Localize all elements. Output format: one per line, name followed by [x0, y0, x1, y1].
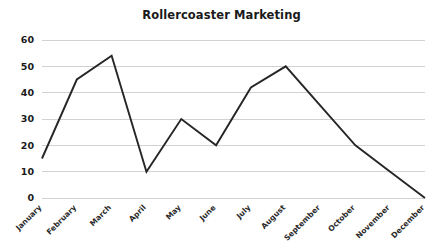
- x-axis-tick-label: April: [127, 203, 148, 224]
- x-axis-tick-label: June: [197, 203, 217, 223]
- y-axis-tick-label: 10: [21, 166, 35, 177]
- y-axis-tick-label: 50: [21, 61, 35, 72]
- x-axis-tick-label: December: [389, 203, 426, 240]
- y-axis-tick-label: 40: [21, 87, 35, 98]
- y-axis-tick-label: 60: [21, 34, 35, 45]
- x-axis-tick-label: October: [326, 203, 357, 234]
- y-axis-tick-label: 0: [27, 192, 34, 203]
- y-axis-tick-label: 20: [21, 140, 35, 151]
- x-axis-tick-label: September: [282, 203, 322, 243]
- x-axis-tick-label: May: [164, 203, 183, 222]
- chart-container: Rollercoaster Marketing 0102030405060 Ja…: [0, 0, 443, 252]
- x-axis-tick-label: November: [354, 203, 392, 241]
- x-axis-tick-label: July: [234, 203, 252, 221]
- line-chart-plot: 0102030405060 JanuaryFebruaryMarchAprilM…: [0, 0, 443, 252]
- x-axis-tick-label: August: [259, 203, 287, 231]
- x-axis-tick-label: February: [45, 203, 79, 237]
- data-series-line: [42, 56, 425, 198]
- y-axis-tick-label: 30: [21, 113, 35, 124]
- y-axis-tick-labels: 0102030405060: [21, 34, 35, 203]
- x-axis-tick-label: March: [88, 203, 113, 228]
- x-axis-tick-labels: JanuaryFebruaryMarchAprilMayJuneJulyAugu…: [13, 203, 426, 243]
- x-axis-tick-label: January: [13, 203, 43, 233]
